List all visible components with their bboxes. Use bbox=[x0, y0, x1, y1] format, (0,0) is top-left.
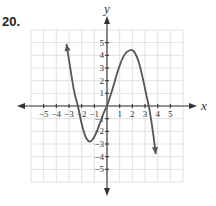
x-tick-label: 3 bbox=[143, 109, 148, 119]
y-tick-label: −3 bbox=[94, 139, 104, 149]
function-curve bbox=[66, 44, 155, 154]
curve-start-arrow-icon bbox=[65, 44, 71, 51]
x-tick-label: −4 bbox=[52, 109, 62, 119]
x-axis-right-arrow-icon bbox=[189, 103, 197, 109]
y-tick-label: −4 bbox=[94, 152, 104, 162]
x-tick-label: 4 bbox=[155, 109, 160, 119]
curves bbox=[65, 44, 158, 154]
x-tick-label: −5 bbox=[39, 109, 49, 119]
y-tick-label: 4 bbox=[100, 50, 105, 60]
x-tick-label: 1 bbox=[117, 109, 122, 119]
x-tick-label: −3 bbox=[64, 109, 74, 119]
y-axis-down-arrow-icon bbox=[104, 188, 110, 196]
y-axis-up-arrow-icon bbox=[104, 16, 110, 24]
y-axis-label: y bbox=[102, 1, 110, 16]
y-tick-label: −5 bbox=[94, 164, 104, 174]
x-axis-label: x bbox=[200, 98, 207, 113]
y-tick-label: 5 bbox=[100, 38, 105, 48]
y-tick-label: 1 bbox=[100, 88, 105, 98]
x-axis-left-arrow-icon bbox=[17, 103, 25, 109]
y-tick-label: 3 bbox=[100, 63, 105, 73]
function-graph: −5−4−3−2−112345−5−4−3−2−112345 x y bbox=[0, 0, 216, 206]
x-tick-label: 2 bbox=[130, 109, 135, 119]
x-tick-label: 5 bbox=[168, 109, 173, 119]
y-tick-label: 2 bbox=[100, 76, 105, 86]
